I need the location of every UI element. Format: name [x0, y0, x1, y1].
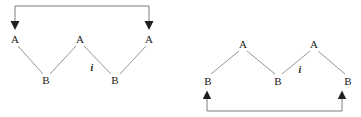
- left-top-connector: [11, 6, 154, 30]
- node-label: A: [239, 39, 247, 50]
- diagram-canvas: A A A B B i A A B B B i: [0, 0, 361, 117]
- node-label: B: [111, 75, 118, 86]
- node-label: B: [204, 76, 211, 87]
- edge-A2-B1: [50, 46, 76, 74]
- left-connector-path: [15, 6, 149, 23]
- edge-RA1-RB1: [211, 51, 239, 74]
- node-label: A: [310, 39, 318, 50]
- left-connector-arrowhead-right: [145, 21, 154, 30]
- node-label: A: [145, 34, 153, 45]
- edge-A3-B2: [120, 46, 146, 74]
- node-label: B: [344, 76, 351, 87]
- node-label: A: [76, 34, 84, 45]
- edge-A2-B2: [84, 46, 111, 74]
- node-label: B: [274, 76, 281, 87]
- right-diagram-edges: [211, 51, 345, 74]
- edge-label-i: i: [91, 63, 94, 73]
- edge-RA2-RB3: [318, 51, 345, 74]
- left-diagram-graphics: [0, 0, 361, 117]
- right-connector-path: [207, 97, 342, 111]
- right-bottom-connector: [203, 91, 346, 112]
- edge-A1-B1: [18, 46, 43, 74]
- left-connector-arrowhead-left: [11, 21, 20, 30]
- right-connector-arrowhead-right: [338, 91, 346, 100]
- right-connector-arrowhead-left: [203, 91, 211, 100]
- node-label: A: [11, 34, 19, 45]
- edge-RA2-RB2: [282, 51, 310, 74]
- left-diagram-edges: [18, 46, 146, 74]
- edge-label-i: i: [299, 65, 302, 75]
- node-label: B: [42, 75, 49, 86]
- edge-RA1-RB2: [247, 51, 275, 74]
